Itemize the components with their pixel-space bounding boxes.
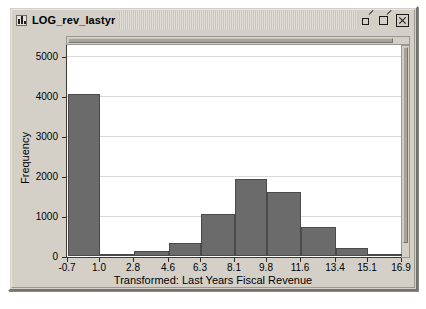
x-axis-tick-label: 15.1 <box>350 263 384 273</box>
y-axis-tick-label: 0 <box>18 252 58 262</box>
histogram-bar <box>368 254 402 256</box>
bar-chart-icon <box>16 15 27 26</box>
titlebar-buttons <box>358 11 413 29</box>
plot-vscrollbar[interactable] <box>401 45 410 258</box>
hscrollbar-thumb[interactable] <box>68 38 393 43</box>
x-axis-title: Transformed: Last Years Fiscal Revenue <box>13 274 413 286</box>
histogram-bar <box>169 243 201 256</box>
histogram-bar <box>301 227 335 256</box>
y-axis-tick-label: 2000 <box>18 172 58 182</box>
window-titlebar[interactable]: LOG_rev_lastyr <box>13 11 413 29</box>
plot-frame: -0.71.02.84.66.38.19.811.613.415.116.9 <box>66 36 410 258</box>
minimize-button[interactable] <box>362 14 374 26</box>
y-axis-tick-label: 5000 <box>18 52 58 62</box>
vscrollbar-thumb[interactable] <box>403 47 408 243</box>
titlebar-drag-area[interactable] <box>119 11 358 29</box>
histogram-bar <box>68 94 100 256</box>
x-axis-tick-label: 2.8 <box>116 263 150 273</box>
histogram-bars <box>67 45 401 256</box>
y-axis-tick-label: 1000 <box>18 212 58 222</box>
y-axis-tick-label: 4000 <box>18 92 58 102</box>
maximize-button[interactable] <box>379 14 391 26</box>
titlebar-left: LOG_rev_lastyr <box>13 11 119 29</box>
histogram-bar <box>134 251 168 256</box>
y-axis-tick-label: 3000 <box>18 132 58 142</box>
plot-hscrollbar[interactable] <box>66 36 410 45</box>
x-axis-tick-label: 6.3 <box>183 263 217 273</box>
histogram-bar <box>100 254 134 256</box>
x-axis-tick-label: 8.1 <box>217 263 251 273</box>
chart-window: LOG_rev_lastyr Frequency 010002000300040… <box>8 6 418 291</box>
x-axis-tick-label: 9.8 <box>249 263 283 273</box>
plot-area <box>66 45 401 258</box>
screenshot-root: LOG_rev_lastyr Frequency 010002000300040… <box>0 0 426 309</box>
close-button[interactable] <box>396 14 409 27</box>
chart-panel: Frequency 010002000300040005000 -0.71.02… <box>13 30 413 286</box>
window-title: LOG_rev_lastyr <box>32 15 115 26</box>
histogram-bar <box>336 248 368 256</box>
x-axis-tick-label: 11.6 <box>283 263 317 273</box>
histogram-bar <box>267 192 301 256</box>
x-axis-tick-label: 1.0 <box>82 263 116 273</box>
x-axis-tick-label: 4.6 <box>151 263 185 273</box>
histogram-bar <box>201 214 235 256</box>
x-axis-tick-label: 13.4 <box>318 263 352 273</box>
x-axis-tick-label: 16.9 <box>384 263 418 273</box>
x-axis-tick-label: -0.7 <box>50 263 84 273</box>
histogram-bar <box>235 179 267 256</box>
